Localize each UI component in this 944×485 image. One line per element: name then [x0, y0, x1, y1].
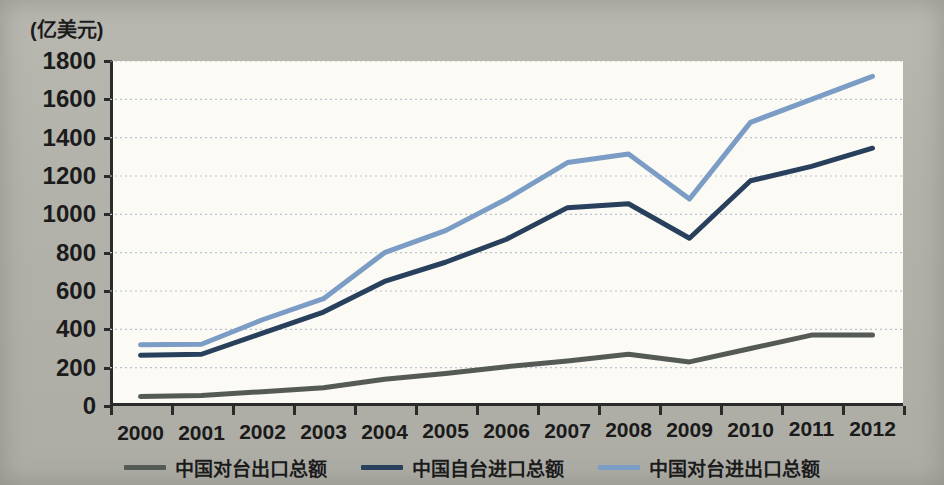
plot-wrapper	[110, 61, 903, 406]
legend-color-swatch	[598, 465, 640, 470]
x-axis-tick-mark	[903, 406, 906, 415]
y-axis-tick-label: 800	[56, 239, 96, 267]
y-axis-tick-label: 1600	[43, 85, 96, 113]
y-axis-unit-label: (亿美元)	[30, 14, 103, 43]
x-axis-tick-label: 2010	[727, 418, 774, 442]
x-axis-tick-label: 2011	[789, 417, 835, 441]
legend-item[interactable]: 中国对台进出口总额	[598, 454, 820, 481]
x-axis-tick-mark	[842, 406, 845, 415]
x-axis-tick-label: 2008	[605, 418, 652, 442]
y-axis-tick-label: 1000	[43, 200, 96, 228]
legend-color-swatch	[361, 465, 403, 470]
x-axis-tick-marks	[110, 406, 903, 415]
x-axis-tick-mark	[659, 406, 662, 415]
x-axis-tick-label: 2005	[422, 419, 469, 443]
x-axis-tick-mark	[293, 406, 296, 415]
y-axis-tick-label: 600	[56, 277, 96, 305]
y-axis-tick-label: 1800	[43, 47, 96, 75]
x-axis-tick-label: 2003	[300, 420, 347, 444]
x-axis-tick-mark	[476, 406, 479, 415]
y-axis-tick-labels: 020040060080010001200140016001800	[0, 61, 104, 406]
x-axis-tick-mark	[232, 406, 235, 415]
legend-label: 中国自台进口总额	[412, 454, 564, 481]
x-axis-tick-mark	[354, 406, 357, 415]
y-axis-tick-label: 1200	[43, 162, 96, 190]
x-axis-tick-label: 2004	[361, 420, 408, 444]
chart-legend: 中国对台出口总额中国自台进口总额中国对台进出口总额	[0, 452, 944, 482]
x-axis-tick-labels: 2000200120022003200420052006200720082009…	[110, 417, 903, 449]
legend-label: 中国对台进出口总额	[649, 454, 820, 481]
x-axis-tick-mark	[598, 406, 601, 415]
x-axis-tick-label: 2000	[117, 421, 164, 445]
y-axis-tick-label: 200	[56, 354, 96, 382]
y-axis-tick-label: 0	[83, 392, 96, 420]
legend-label: 中国对台出口总额	[175, 454, 327, 481]
x-axis-tick-mark	[171, 406, 174, 415]
y-axis-tick-label: 1400	[43, 124, 96, 152]
series-line	[141, 76, 873, 344]
y-axis-tick-label: 400	[56, 315, 96, 343]
x-axis-tick-label: 2006	[483, 419, 530, 443]
x-axis-tick-label: 2001	[178, 421, 225, 445]
x-axis-tick-mark	[781, 406, 784, 415]
series-line	[141, 335, 873, 396]
x-axis-tick-label: 2012	[849, 417, 896, 441]
legend-item[interactable]: 中国自台进口总额	[361, 454, 564, 481]
x-axis-tick-mark	[720, 406, 723, 415]
x-axis-tick-mark	[537, 406, 540, 415]
chart-figure: (亿美元) 020040060080010001200140016001800 …	[0, 0, 944, 485]
x-axis-tick-mark	[110, 406, 113, 415]
legend-item[interactable]: 中国对台出口总额	[124, 454, 327, 481]
x-axis-tick-label: 2007	[544, 419, 591, 443]
x-axis-tick-label: 2002	[239, 420, 286, 444]
x-axis-tick-mark	[415, 406, 418, 415]
legend-color-swatch	[124, 465, 166, 470]
chart-lines	[110, 61, 903, 406]
x-axis-tick-label: 2009	[666, 418, 713, 442]
